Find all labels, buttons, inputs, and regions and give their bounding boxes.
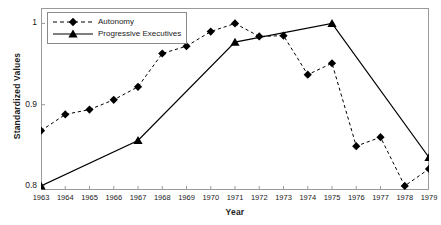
legend-swatch-dashed-diamond [52,16,94,28]
legend-label: Progressive Executives [94,28,181,40]
legend-swatch-solid-triangle [52,28,94,40]
chart-legend: Autonomy Progressive Executives [47,12,187,44]
legend-item-progressive-executives: Progressive Executives [52,28,181,40]
x-axis-title: Year [41,207,429,217]
y-axis-title: Standardized Values [10,0,24,196]
y-axis-tick-label: 0.9 [11,100,37,109]
x-axis-tick-label: 1979 [414,193,441,202]
chart-figure: Standardized Values Year 10.90.8 1963196… [0,0,441,225]
y-axis-tick-label: 0.8 [11,181,37,190]
y-axis-tick-label: 1 [11,18,37,27]
legend-item-autonomy: Autonomy [52,16,181,28]
legend-label: Autonomy [94,16,134,28]
